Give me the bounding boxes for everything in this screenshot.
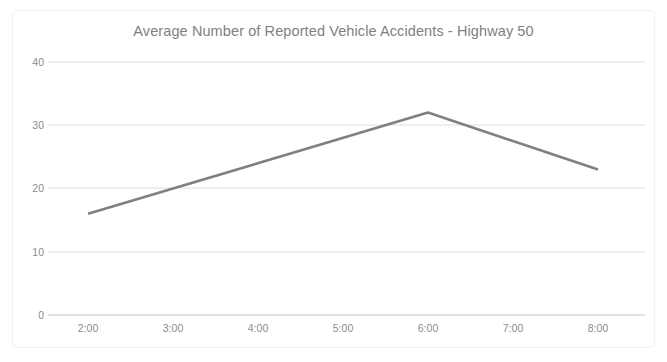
x-axis-tick-label-5-00: 5:00 bbox=[318, 322, 368, 334]
x-axis-tick-label-8-00: 8:00 bbox=[573, 322, 623, 334]
plot-area bbox=[0, 0, 667, 362]
data-series-line bbox=[88, 113, 598, 214]
x-axis-tick-label-3-00: 3:00 bbox=[148, 322, 198, 334]
x-axis-tick-label-2-00: 2:00 bbox=[63, 322, 113, 334]
x-axis-tick-label-7-00: 7:00 bbox=[488, 322, 538, 334]
x-axis-tick-label-6-00: 6:00 bbox=[403, 322, 453, 334]
x-axis-tick-label-4-00: 4:00 bbox=[233, 322, 283, 334]
chart-container: Average Number of Reported Vehicle Accid… bbox=[0, 0, 667, 362]
y-gridlines bbox=[48, 62, 645, 252]
